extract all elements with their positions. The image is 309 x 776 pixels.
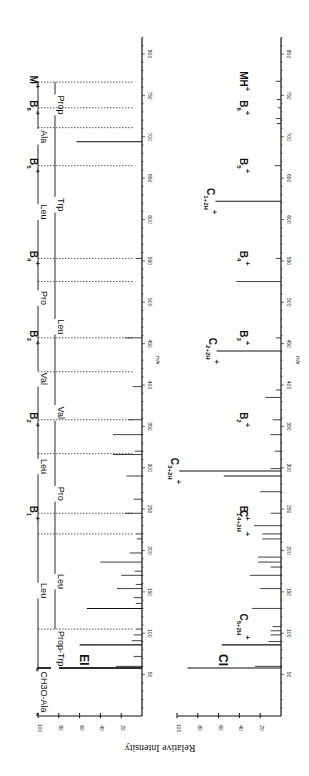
mass-spectrum-figure: 5010015020025030035040045050055060065070…	[0, 0, 309, 776]
mz-tick-label: 50	[147, 672, 153, 678]
intensity-tick-label: 20	[120, 725, 126, 731]
y-axis-title: Relative Intensity	[125, 743, 196, 754]
ei-spectrum-panel: 5010015020025030035040045050055060065070…	[26, 37, 153, 732]
mz-tick-label: 450	[147, 339, 153, 348]
mz-tick-label: 200	[147, 546, 153, 555]
ei-panel-label: EI	[77, 654, 91, 665]
figure-canvas: 5010015020025030035040045050055060065070…	[0, 0, 309, 776]
residue-label: CH3O-Ala	[39, 671, 49, 712]
intensity-tick-label: 100	[37, 724, 43, 733]
residue-label: Ala	[39, 130, 49, 143]
ion-annotation-c52h: C5+2H+	[236, 613, 252, 640]
ion-annotation-b1: B1+	[26, 506, 42, 522]
residue-label: Leu	[39, 583, 49, 598]
mz-tick-label: 100	[147, 629, 153, 638]
ion-annotation-mh: MH+	[238, 71, 252, 92]
residue-label: Prop-Trp	[56, 631, 66, 666]
mz-tick-label: 600	[286, 215, 292, 224]
mz-tick-label: 350	[147, 422, 153, 431]
mz-tick-label: 700	[147, 133, 153, 142]
mz-tick-label: 300	[286, 464, 292, 473]
intensity-tick-label: 80	[197, 725, 203, 731]
mz-tick-label: 200	[286, 546, 292, 555]
mz-tick-label: 650	[147, 174, 153, 183]
intensity-tick-label: 20	[259, 725, 265, 731]
residue-label: Val	[56, 407, 66, 419]
mz-tick-label: 150	[147, 588, 153, 597]
ion-annotation-b4: B4+	[236, 251, 252, 267]
ci-panel-label: CI	[216, 654, 230, 666]
mz-tick-label: 400	[147, 381, 153, 390]
residue-label: Leu	[56, 574, 66, 589]
mz-tick-label: 800	[147, 50, 153, 59]
ion-annotation-b2: B2+	[26, 412, 42, 428]
intensity-tick-label: 80	[58, 725, 64, 731]
residue-label: Leu	[56, 319, 66, 334]
x-axis-title-ci: m/e	[295, 356, 301, 365]
ci-spectrum-panel: 5010015020025030035040045050055060065070…	[167, 37, 292, 732]
ion-annotation-b3: B3+	[236, 330, 252, 346]
intensity-tick-label: 100	[176, 724, 182, 733]
ion-annotation-b2: B2+	[236, 412, 252, 428]
mz-tick-label: 500	[286, 298, 292, 307]
mz-tick-label: 750	[286, 91, 292, 100]
mz-tick-label: 600	[147, 215, 153, 224]
mz-tick-label: 500	[147, 298, 153, 307]
mz-tick-label: 550	[147, 257, 153, 266]
residue-label: Prop	[56, 95, 66, 114]
mz-tick-label: 150	[286, 588, 292, 597]
intensity-tick-label: 40	[99, 725, 105, 731]
shared-axis-labels: Relative Intensitym/em/e	[125, 356, 301, 754]
ion-annotation-b3: B3+	[26, 330, 42, 346]
mz-tick-label: 700	[286, 133, 292, 142]
residue-label: Pro	[39, 291, 49, 305]
mz-tick-label: 50	[286, 672, 292, 678]
ion-annotation-b6: B6+	[26, 100, 42, 116]
residue-label: Pro	[56, 487, 66, 501]
mz-tick-label: 250	[286, 505, 292, 514]
residue-label: Trp	[56, 198, 66, 211]
intensity-tick-label: 60	[79, 725, 85, 731]
mz-tick-label: 650	[286, 174, 292, 183]
x-axis-title-ei: m/e	[155, 356, 161, 365]
ion-annotation-b4: B4+	[26, 251, 42, 267]
mz-tick-label: 250	[147, 505, 153, 514]
residue-label: Leu	[39, 459, 49, 474]
ion-annotation-m: M+	[28, 76, 42, 89]
mz-tick-label: 400	[286, 381, 292, 390]
mz-tick-label: 750	[147, 91, 153, 100]
residue-label: Leu	[39, 205, 49, 220]
mz-tick-label: 450	[286, 339, 292, 348]
ion-annotation-b5: B5+	[236, 158, 252, 174]
intensity-tick-label: 60	[218, 725, 224, 731]
ion-annotation-b6: B6+	[236, 100, 252, 116]
mz-tick-label: 350	[286, 422, 292, 431]
mz-tick-label: 550	[286, 257, 292, 266]
mz-tick-label: 100	[286, 629, 292, 638]
intensity-tick-label: 40	[238, 725, 244, 731]
mz-tick-label: 800	[286, 50, 292, 59]
mz-tick-label: 300	[147, 464, 153, 473]
residue-label: Val	[39, 373, 49, 385]
ion-annotation-b5: B5+	[26, 158, 42, 174]
